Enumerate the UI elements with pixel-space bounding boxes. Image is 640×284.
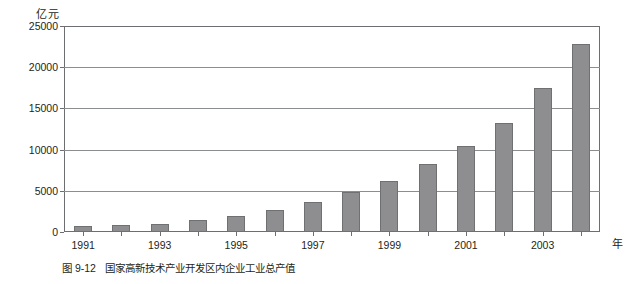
y-tick-label: 15000: [29, 103, 58, 114]
plot-frame: [64, 26, 600, 232]
bar: [380, 181, 398, 232]
figure-container: 亿元 0500010000150002000025000 19911993199…: [0, 0, 640, 284]
x-tick-mark: [504, 232, 505, 236]
y-tick-mark: [60, 67, 64, 68]
bar: [151, 224, 169, 232]
x-tick-mark: [160, 232, 161, 236]
y-tick-label: 5000: [35, 185, 58, 196]
x-tick-label: 1999: [378, 239, 401, 251]
bar: [495, 123, 513, 232]
x-tick-mark: [121, 232, 122, 236]
bar: [419, 164, 437, 232]
y-tick-mark: [60, 232, 64, 233]
x-tick-mark: [313, 232, 314, 236]
bar: [534, 88, 552, 232]
y-tick-label: 20000: [29, 62, 58, 73]
x-tick-mark: [581, 232, 582, 236]
bar: [266, 210, 284, 232]
y-tick-mark: [60, 26, 64, 27]
figure-caption: 图 9-12国家高新技术产业开发区内企业工业总产值: [62, 262, 295, 275]
figure-caption-text: 国家高新技术产业开发区内企业工业总产值: [105, 262, 295, 274]
x-tick-mark: [389, 232, 390, 236]
y-tick-label: 10000: [29, 144, 58, 155]
y-tick-mark: [60, 150, 64, 151]
x-tick-mark: [428, 232, 429, 236]
bar: [112, 225, 130, 232]
y-tick-mark: [60, 108, 64, 109]
bar: [189, 220, 207, 232]
bar: [342, 192, 360, 232]
x-tick-label: 1997: [301, 239, 324, 251]
gridline: [64, 150, 600, 151]
x-axis-unit-label: 年: [612, 238, 623, 251]
figure-number: 图 9-12: [62, 262, 96, 274]
bar: [457, 146, 475, 232]
x-tick-label: 2003: [531, 239, 554, 251]
x-tick-mark: [275, 232, 276, 236]
bar: [227, 216, 245, 232]
gridline: [64, 67, 600, 68]
x-tick-mark: [543, 232, 544, 236]
x-tick-mark: [236, 232, 237, 236]
bar: [572, 44, 590, 232]
x-tick-label: 1995: [225, 239, 248, 251]
plot-area: 0500010000150002000025000 19911993199519…: [64, 26, 600, 232]
x-tick-mark: [466, 232, 467, 236]
x-tick-mark: [83, 232, 84, 236]
x-tick-label: 1993: [148, 239, 171, 251]
x-tick-mark: [351, 232, 352, 236]
y-tick-mark: [60, 191, 64, 192]
x-tick-label: 1991: [71, 239, 94, 251]
x-tick-label: 2001: [454, 239, 477, 251]
x-tick-mark: [198, 232, 199, 236]
gridline: [64, 108, 600, 109]
y-tick-label: 0: [52, 227, 58, 238]
y-tick-label: 25000: [29, 21, 58, 32]
bar: [304, 202, 322, 232]
gridline: [64, 191, 600, 192]
